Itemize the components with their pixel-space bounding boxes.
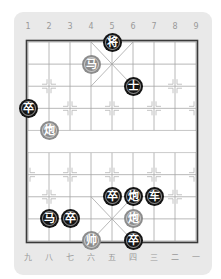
piece-black-soldier[interactable]: 卒 (124, 231, 143, 250)
piece-black-advisor[interactable]: 士 (124, 77, 143, 96)
piece-black-soldier[interactable]: 卒 (103, 187, 122, 206)
piece-black-chariot[interactable]: 车 (145, 187, 164, 206)
piece-glyph: 炮 (128, 191, 139, 202)
piece-glyph: 车 (149, 191, 160, 202)
piece-red-general[interactable]: 帅 (82, 231, 101, 250)
piece-glyph: 卒 (128, 235, 139, 246)
piece-black-soldier[interactable]: 卒 (61, 209, 80, 228)
piece-red-cannon[interactable]: 炮 (40, 121, 59, 140)
piece-red-horse[interactable]: 马 (82, 55, 101, 74)
piece-glyph: 炮 (128, 213, 139, 224)
piece-glyph: 卒 (107, 191, 118, 202)
piece-glyph: 帅 (86, 235, 97, 246)
piece-glyph: 炮 (44, 125, 55, 136)
piece-black-cannon[interactable]: 炮 (124, 187, 143, 206)
piece-glyph: 将 (107, 37, 118, 48)
piece-black-general[interactable]: 将 (103, 33, 122, 52)
piece-black-soldier[interactable]: 卒 (19, 99, 38, 118)
piece-glyph: 卒 (65, 213, 76, 224)
piece-black-horse[interactable]: 马 (40, 209, 59, 228)
piece-glyph: 马 (86, 59, 97, 70)
piece-red-cannon[interactable]: 炮 (124, 209, 143, 228)
piece-glyph: 士 (128, 81, 139, 92)
piece-glyph: 马 (44, 213, 55, 224)
piece-glyph: 卒 (23, 103, 34, 114)
